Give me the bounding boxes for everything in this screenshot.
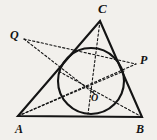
label-point-q: Q bbox=[10, 29, 19, 41]
label-center-o: O bbox=[91, 93, 98, 103]
label-vertex-c: C bbox=[98, 2, 107, 15]
geometry-canvas bbox=[0, 0, 157, 140]
label-point-p: P bbox=[140, 54, 147, 66]
line-b-to-o-extended bbox=[60, 72, 142, 117]
label-vertex-b: B bbox=[136, 123, 144, 135]
dashed-construction-lines bbox=[18, 21, 142, 117]
geometry-figure: C A B P Q O bbox=[0, 0, 157, 140]
label-vertex-a: A bbox=[15, 123, 23, 135]
